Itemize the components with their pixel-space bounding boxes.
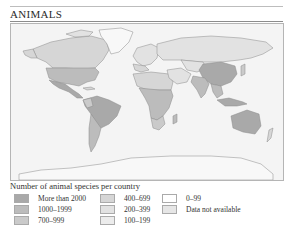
legend-label: 400–699 (124, 194, 150, 203)
legend-item: 100–199 (100, 215, 150, 225)
legend-item: 200–399 (100, 204, 150, 214)
legend-label: 100–199 (124, 216, 150, 225)
legend-label: More than 2000 (38, 194, 86, 203)
legend-swatch (14, 205, 29, 214)
legend-swatch (162, 205, 177, 214)
top-rule (10, 6, 283, 7)
legend-item: 1000–1999 (14, 204, 72, 214)
legend-label: 1000–1999 (38, 205, 72, 214)
legend-swatch (14, 194, 29, 203)
legend-label: Data not available (186, 205, 241, 214)
legend-item: Data not available (162, 204, 241, 214)
legend-label: 0–99 (186, 194, 201, 203)
legend-label: 700–999 (38, 216, 64, 225)
legend-item: More than 2000 (14, 193, 86, 203)
legend-title: Number of animal species per country (10, 181, 140, 191)
region-madagascar (173, 114, 177, 124)
legend-swatch (14, 216, 29, 225)
legend-swatch (100, 205, 115, 214)
legend-swatch (162, 194, 177, 203)
legend-swatch (100, 194, 115, 203)
legend-swatch (100, 216, 115, 225)
world-map-graphic (11, 24, 283, 180)
page-title: ANIMALS (10, 8, 62, 20)
legend-label: 200–399 (124, 205, 150, 214)
world-map (10, 23, 284, 181)
legend-item: 400–699 (100, 193, 150, 203)
legend-item: 700–999 (14, 215, 64, 225)
title-rule (10, 21, 283, 22)
legend-item: 0–99 (162, 193, 201, 203)
